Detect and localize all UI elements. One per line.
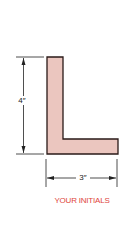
l-shape-diagram	[0, 0, 128, 227]
width-label: 3″	[76, 173, 90, 182]
height-dimension	[16, 57, 44, 154]
caption-your-initials: YOUR INITIALS	[40, 196, 124, 205]
l-shape	[47, 57, 118, 154]
height-label: 4″	[15, 96, 29, 105]
